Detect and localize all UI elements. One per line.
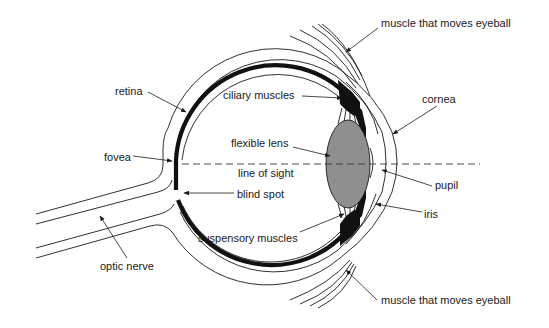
- label-retina: retina: [115, 85, 143, 97]
- eye-diagram: muscle that moves eyeball retina ciliary…: [0, 0, 549, 328]
- label-blind-spot: blind spot: [237, 188, 284, 200]
- label-muscle-top: muscle that moves eyeball: [381, 17, 511, 29]
- extraocular-muscle-bottom: [290, 260, 356, 308]
- label-iris: iris: [424, 208, 439, 220]
- label-suspensory-muscles: suspensory muscles: [198, 232, 298, 244]
- label-line-of-sight: line of sight: [238, 167, 294, 179]
- optic-nerve-shape: [36, 128, 174, 258]
- pupil-edge: [370, 148, 373, 178]
- label-cornea: cornea: [422, 93, 457, 105]
- label-pupil: pupil: [435, 179, 458, 191]
- label-ciliary-muscles: ciliary muscles: [223, 89, 295, 101]
- label-fovea: fovea: [104, 151, 132, 163]
- extraocular-muscle-top: [290, 24, 370, 96]
- label-optic-nerve: optic nerve: [100, 260, 154, 272]
- label-muscle-bottom: muscle that moves eyeball: [381, 294, 511, 306]
- label-flexible-lens: flexible lens: [231, 137, 289, 149]
